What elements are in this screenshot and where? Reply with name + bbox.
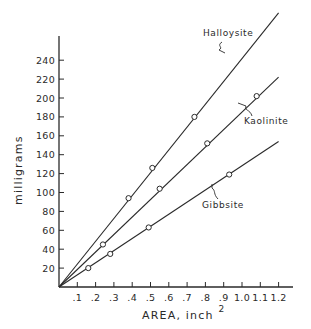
x-tick-label: 1.0 — [234, 292, 250, 303]
data-point-marker — [205, 141, 210, 146]
data-point-marker — [192, 114, 197, 119]
x-tick-label: .9 — [219, 292, 229, 303]
y-tick-label: 220 — [36, 74, 55, 85]
series-halloysite: Halloysite — [59, 13, 279, 287]
series-label: Gibbsite — [202, 200, 244, 210]
data-point-marker — [150, 165, 155, 170]
x-tick-label: .8 — [201, 292, 211, 303]
series-line — [59, 141, 279, 287]
leader-line-icon — [219, 42, 225, 53]
x-ticks: .1.2.3.4.5.6.7.8.91.01.11.2 — [72, 282, 286, 303]
x-axis-title-superscript: 2 — [218, 304, 225, 314]
y-tick-label: 80 — [42, 206, 55, 217]
y-tick-label: 180 — [36, 111, 55, 122]
y-tick-label: 60 — [42, 225, 55, 236]
series-gibbsite: Gibbsite — [59, 141, 279, 287]
data-point-marker — [86, 266, 91, 271]
data-point-marker — [100, 242, 105, 247]
y-tick-label: 100 — [36, 187, 55, 198]
data-point-marker — [227, 172, 232, 177]
x-tick-label: .4 — [127, 292, 137, 303]
y-tick-label: 40 — [42, 244, 55, 255]
series-label: Halloysite — [203, 28, 253, 38]
x-axis-title-text: AREA, inch — [142, 309, 214, 322]
x-tick-label: .2 — [91, 292, 101, 303]
x-tick-label: .3 — [109, 292, 119, 303]
series-group: HalloysiteKaoliniteGibbsite — [59, 13, 288, 287]
x-tick-label: .7 — [182, 292, 192, 303]
data-point-marker — [146, 225, 151, 230]
chart: 20406080100120140160180200220240 .1.2.3.… — [0, 0, 311, 329]
x-tick-label: .1 — [72, 292, 82, 303]
data-point-marker — [126, 196, 131, 201]
y-tick-label: 240 — [36, 55, 55, 66]
y-ticks: 20406080100120140160180200220240 — [36, 55, 64, 274]
series-label: Kaolinite — [244, 116, 288, 126]
leader-line-icon — [212, 184, 218, 199]
x-axis-title: AREA, inch 2 — [142, 304, 225, 322]
x-tick-label: 1.1 — [252, 292, 268, 303]
y-tick-label: 200 — [36, 93, 55, 104]
series-line — [59, 13, 279, 287]
data-point-marker — [254, 94, 259, 99]
y-tick-label: 140 — [36, 149, 55, 160]
y-tick-label: 120 — [36, 168, 55, 179]
x-tick-label: .5 — [146, 292, 156, 303]
series-kaolinite: Kaolinite — [59, 77, 288, 287]
data-point-marker — [108, 251, 113, 256]
axes — [59, 36, 293, 287]
x-tick-label: 1.2 — [271, 292, 287, 303]
data-point-marker — [157, 186, 162, 191]
y-axis-title: milligrams — [12, 135, 25, 205]
y-tick-label: 20 — [42, 263, 55, 274]
x-tick-label: .6 — [164, 292, 174, 303]
y-tick-label: 160 — [36, 130, 55, 141]
